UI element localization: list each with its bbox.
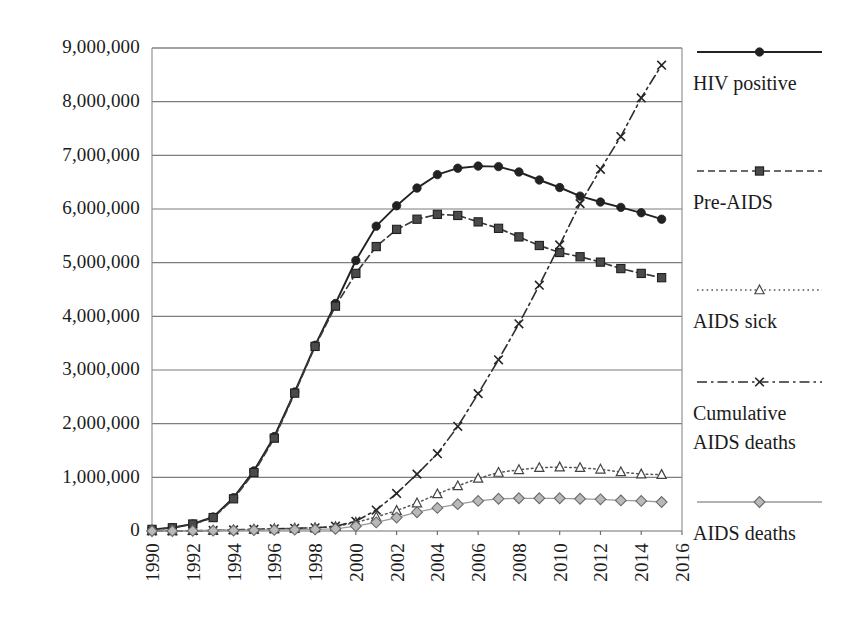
data-point-marker xyxy=(515,233,523,241)
gridlines xyxy=(152,48,682,531)
data-point-marker xyxy=(433,170,441,178)
data-point-marker xyxy=(452,499,463,510)
x-tick-label: 2010 xyxy=(550,543,571,582)
data-point-marker xyxy=(493,493,504,504)
legend-marker-triangle-icon xyxy=(755,285,764,294)
x-tick-label: 2004 xyxy=(427,543,448,582)
data-series-layer xyxy=(147,61,667,537)
y-tick-label: 9,000,000 xyxy=(62,36,140,57)
data-point-marker xyxy=(412,507,423,518)
data-point-marker xyxy=(412,498,421,507)
x-tick-label: 1996 xyxy=(264,543,285,582)
x-tick-label: 1998 xyxy=(305,543,326,582)
data-point-marker xyxy=(352,256,360,264)
data-point-marker xyxy=(575,463,584,472)
x-tick-label: 2014 xyxy=(631,543,652,582)
x-tick-label: 2002 xyxy=(387,543,408,582)
chart-figure: 01,000,0002,000,0003,000,0004,000,0005,0… xyxy=(0,0,846,624)
y-tick-label: 0 xyxy=(130,519,140,540)
data-point-marker xyxy=(392,202,400,210)
data-point-marker xyxy=(617,264,625,272)
data-point-marker xyxy=(515,168,523,176)
legend-entry-pre-aids[interactable]: Pre-AIDS xyxy=(693,167,822,213)
y-tick-label: 7,000,000 xyxy=(62,144,140,165)
data-point-marker xyxy=(636,496,647,507)
chart-legend: HIV positivePre-AIDSAIDS sickCumulativeA… xyxy=(693,48,822,544)
legend-label: AIDS sick xyxy=(693,310,777,332)
legend-label: HIV positive xyxy=(693,72,797,95)
data-point-marker xyxy=(352,269,360,277)
data-point-marker xyxy=(596,464,605,473)
data-point-marker xyxy=(494,356,503,365)
data-point-marker xyxy=(535,176,543,184)
data-point-marker xyxy=(413,215,421,223)
x-tick-label: 2006 xyxy=(468,543,489,582)
data-point-marker xyxy=(473,496,484,507)
data-point-marker xyxy=(576,253,584,261)
legend-label: Pre-AIDS xyxy=(693,191,773,213)
x-tick-label: 1992 xyxy=(183,543,204,582)
legend-label: Cumulative xyxy=(693,402,786,424)
line-chart: 01,000,0002,000,0003,000,0004,000,0005,0… xyxy=(0,0,846,624)
legend-entry-cumulative[interactable]: CumulativeAIDS deaths xyxy=(693,378,822,453)
data-point-marker xyxy=(291,389,299,397)
data-point-marker xyxy=(617,203,625,211)
data-point-marker xyxy=(657,470,666,479)
legend-marker-diamond-icon xyxy=(754,497,765,508)
legend-label: AIDS deaths xyxy=(693,522,796,544)
data-point-marker xyxy=(596,258,604,266)
legend-marker-square-icon xyxy=(755,167,763,175)
data-point-marker xyxy=(596,198,604,206)
y-tick-label: 4,000,000 xyxy=(62,305,140,326)
data-point-marker xyxy=(474,218,482,226)
data-point-marker xyxy=(310,524,321,535)
legend-entry-aids-sick[interactable]: AIDS sick xyxy=(693,285,822,332)
data-point-marker xyxy=(575,493,586,504)
x-tick-label: 2008 xyxy=(509,543,530,582)
data-point-marker xyxy=(554,493,565,504)
legend-label: AIDS deaths xyxy=(693,431,796,453)
data-point-marker xyxy=(657,215,665,223)
data-point-marker xyxy=(615,495,626,506)
data-point-marker xyxy=(413,184,421,192)
y-tick-label: 1,000,000 xyxy=(62,466,140,487)
data-point-marker xyxy=(555,183,563,191)
data-point-marker xyxy=(432,503,443,514)
legend-entry-hiv-positive[interactable]: HIV positive xyxy=(693,48,822,95)
data-point-marker xyxy=(494,162,502,170)
data-point-marker xyxy=(515,320,524,329)
data-point-marker xyxy=(596,165,605,174)
legend-entry-aids-deaths[interactable]: AIDS deaths xyxy=(693,497,822,544)
data-point-marker xyxy=(617,132,626,141)
data-point-marker xyxy=(454,211,462,219)
series-line xyxy=(152,65,662,531)
y-tick-label: 5,000,000 xyxy=(62,251,140,272)
data-point-marker xyxy=(433,449,442,458)
data-point-marker xyxy=(229,495,237,503)
data-point-marker xyxy=(656,497,667,508)
data-point-marker xyxy=(372,242,380,250)
data-point-marker xyxy=(494,224,502,232)
x-tick-label: 2016 xyxy=(672,543,693,582)
data-point-marker xyxy=(270,434,278,442)
y-tick-label: 3,000,000 xyxy=(62,358,140,379)
y-tick-label: 2,000,000 xyxy=(62,412,140,433)
series-pre-aids xyxy=(148,210,666,533)
data-point-marker xyxy=(209,513,217,521)
data-point-marker xyxy=(637,269,645,277)
y-tick-label: 8,000,000 xyxy=(62,90,140,111)
data-point-marker xyxy=(331,302,339,310)
x-tick-label: 1994 xyxy=(224,543,245,582)
data-point-marker xyxy=(534,493,545,504)
series-line xyxy=(152,214,662,529)
data-point-marker xyxy=(474,162,482,170)
data-point-marker xyxy=(474,389,483,398)
data-point-marker xyxy=(494,468,503,477)
series-cumulative-aids-deaths xyxy=(148,61,666,535)
data-point-marker xyxy=(393,225,401,233)
data-point-marker xyxy=(514,493,525,504)
data-point-marker xyxy=(311,342,319,350)
series-line xyxy=(152,166,662,529)
data-point-marker xyxy=(637,209,645,217)
data-point-marker xyxy=(433,210,441,218)
